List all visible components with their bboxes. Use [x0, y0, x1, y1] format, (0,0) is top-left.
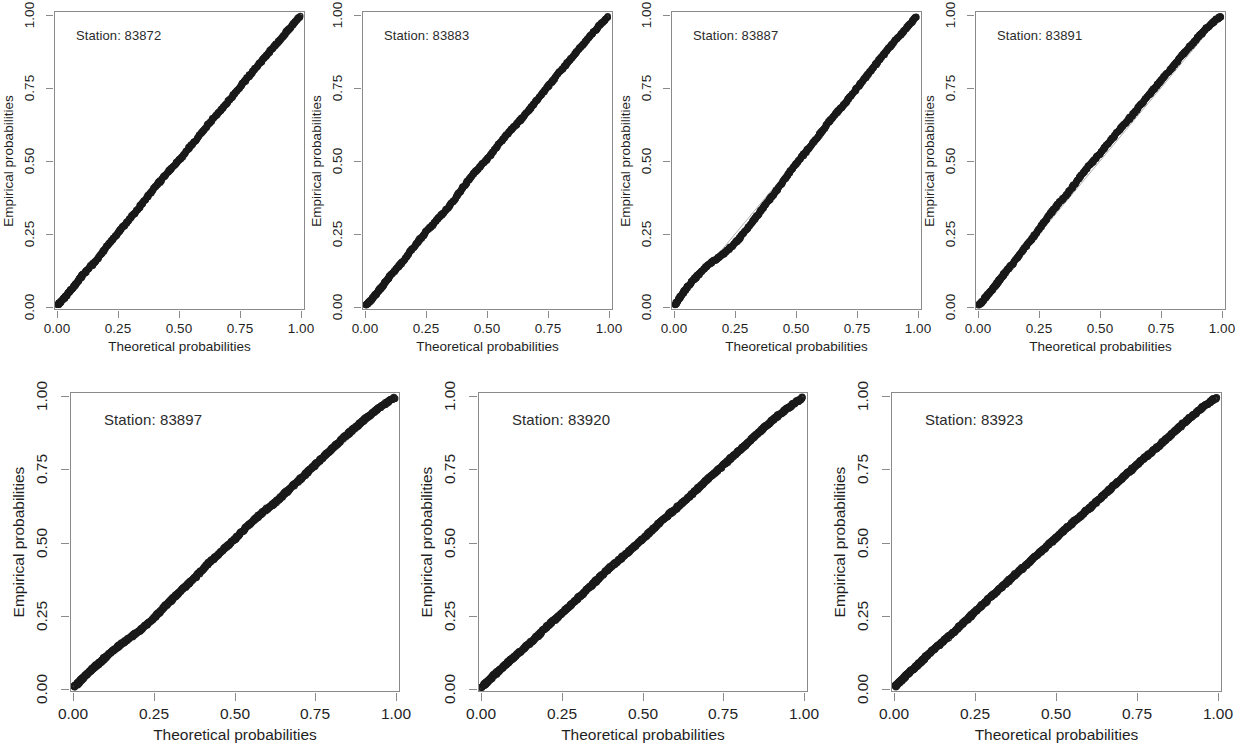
x-tick-3: [1137, 693, 1138, 701]
x-tick-label-4: 1.00: [1203, 705, 1233, 723]
y-tick-label-3: 0.75: [854, 454, 872, 484]
x-tick-1: [975, 693, 976, 701]
x-tick-2: [1056, 693, 1057, 701]
y-tick-2: [882, 543, 890, 544]
panel-83923: Station: 839230.000.250.500.751.000.000.…: [0, 0, 1243, 754]
qq-plot-figure: Station: 838720.000.250.500.751.000.000.…: [0, 0, 1243, 754]
y-tick-label-4: 1.00: [854, 381, 872, 411]
y-tick-4: [882, 396, 890, 397]
x-tick-0: [894, 693, 895, 701]
x-tick-4: [1218, 693, 1219, 701]
y-tick-label-2: 0.50: [854, 528, 872, 558]
data-points: [892, 395, 1220, 690]
y-tick-label-0: 0.00: [854, 674, 872, 704]
x-tick-label-0: 0.00: [879, 705, 909, 723]
y-tick-0: [882, 689, 890, 690]
plot-area-83923: [891, 392, 1222, 692]
station-label-83923: Station: 83923: [925, 411, 1023, 428]
x-tick-label-1: 0.25: [960, 705, 990, 723]
x-tick-label-3: 0.75: [1122, 705, 1152, 723]
y-axis-title-83923: Empirical probabilities: [831, 467, 849, 618]
y-tick-label-1: 0.25: [854, 601, 872, 631]
y-tick-1: [882, 616, 890, 617]
y-tick-3: [882, 469, 890, 470]
x-axis-title-83923: Theoretical probabilities: [975, 726, 1139, 744]
plot-canvas-83923: [892, 393, 1221, 691]
x-tick-label-2: 0.50: [1041, 705, 1071, 723]
